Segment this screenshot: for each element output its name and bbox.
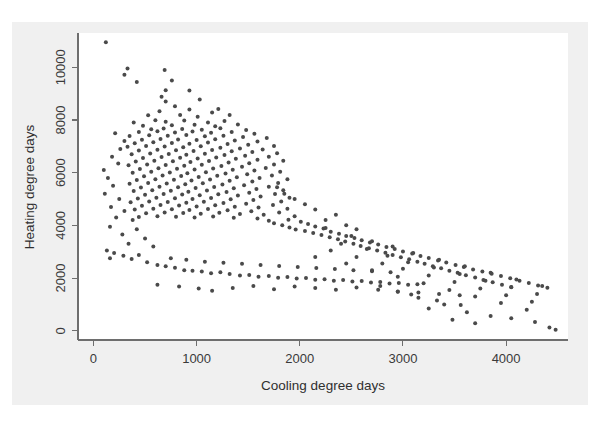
data-point (287, 196, 291, 200)
data-point (142, 174, 146, 178)
data-point (458, 293, 462, 297)
data-point (378, 284, 382, 288)
data-point (173, 196, 177, 200)
data-point (293, 197, 297, 201)
data-point (272, 221, 276, 225)
data-point (311, 231, 315, 235)
data-point (203, 134, 207, 138)
data-point (206, 207, 210, 211)
data-point (211, 166, 215, 170)
data-point (525, 308, 529, 312)
data-point (203, 260, 207, 264)
data-point (554, 328, 558, 332)
data-point (281, 159, 285, 163)
data-point (169, 189, 173, 193)
data-point (175, 167, 179, 171)
data-point (427, 306, 431, 310)
data-point (535, 292, 539, 296)
data-point (170, 141, 174, 145)
data-point (447, 288, 451, 292)
data-point (416, 291, 420, 295)
data-point (198, 97, 202, 101)
data-point (295, 277, 299, 281)
data-point (473, 276, 477, 280)
data-point (213, 137, 217, 141)
data-point (334, 288, 338, 292)
data-point (343, 239, 347, 243)
data-point (255, 140, 259, 144)
data-point (156, 166, 160, 170)
x-axis-ticks: 01000200030004000 (90, 340, 521, 366)
data-point (236, 194, 240, 198)
data-point (437, 258, 441, 262)
data-point (401, 267, 405, 271)
data-point (108, 256, 112, 260)
data-point (202, 200, 206, 204)
data-point (103, 192, 107, 196)
y-tick-label: 10000 (53, 49, 68, 85)
data-point (133, 141, 137, 145)
data-point (148, 151, 152, 155)
data-point (121, 254, 125, 258)
data-point (255, 158, 259, 162)
data-point (391, 253, 395, 257)
data-point (459, 303, 463, 307)
data-point (135, 80, 139, 84)
data-point (132, 121, 136, 125)
data-point (399, 255, 403, 259)
data-point (282, 192, 286, 196)
data-point (135, 178, 139, 182)
data-point (267, 274, 271, 278)
data-point (177, 204, 181, 208)
data-point (246, 143, 250, 147)
data-point (181, 211, 185, 215)
data-point (247, 161, 251, 165)
data-point (303, 202, 307, 206)
data-point (207, 159, 211, 163)
data-point (217, 211, 221, 215)
data-point (233, 205, 237, 209)
data-point (465, 310, 469, 314)
data-point (146, 113, 150, 117)
data-point (224, 171, 228, 175)
data-point (154, 196, 158, 200)
data-point (287, 225, 291, 229)
data-point (170, 207, 174, 211)
data-point (218, 270, 222, 274)
data-point (200, 163, 204, 167)
data-point (225, 190, 229, 194)
data-point (180, 127, 184, 131)
data-point (198, 193, 202, 197)
data-point (255, 217, 259, 221)
data-point (145, 163, 149, 167)
data-point (182, 268, 186, 272)
data-point (251, 198, 255, 202)
data-point (221, 261, 225, 265)
data-point (453, 280, 457, 284)
data-point (109, 205, 113, 209)
data-point (375, 248, 379, 252)
data-point (213, 124, 217, 128)
data-point (464, 273, 468, 277)
data-point (120, 233, 124, 237)
data-point (397, 281, 401, 285)
data-point (197, 175, 201, 179)
data-point (136, 196, 140, 200)
data-point (355, 227, 359, 231)
data-point (105, 248, 109, 252)
data-point (210, 148, 214, 152)
data-point (229, 197, 233, 201)
data-point (200, 269, 204, 273)
data-point (214, 155, 218, 159)
data-point (334, 213, 338, 217)
data-point (147, 199, 151, 203)
data-point (118, 147, 122, 151)
data-point (102, 168, 106, 172)
data-point (164, 163, 168, 167)
data-point (499, 274, 503, 278)
data-point (195, 204, 199, 208)
data-point (185, 171, 189, 175)
data-point (401, 249, 405, 253)
data-point (163, 68, 167, 72)
data-point (172, 178, 176, 182)
